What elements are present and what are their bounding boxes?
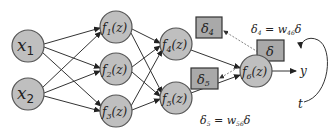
edges-hidden1-hidden2 xyxy=(131,29,162,110)
delta-box-5: δ5 xyxy=(191,68,218,89)
hidden-node-f3: f3(z) xyxy=(100,95,132,127)
svg-text:f4(z): f4(z) xyxy=(161,38,188,54)
equation-delta5: δ5 = w56δ xyxy=(200,114,251,127)
input-node-x2: x2 xyxy=(12,78,44,110)
input-node-x1: x1 xyxy=(12,30,44,62)
svg-text:f1(z): f1(z) xyxy=(101,21,128,37)
svg-text:f5(z): f5(z) xyxy=(161,92,188,108)
hidden-node-f2: f2(z) xyxy=(100,53,132,85)
svg-text:f3(z): f3(z) xyxy=(101,105,128,121)
delta-box-4: δ4 xyxy=(196,17,222,38)
equation-delta4: δ4 = w46δ xyxy=(251,23,302,36)
svg-text:δ: δ xyxy=(266,44,274,59)
hidden-node-f4: f4(z) xyxy=(160,28,192,60)
network-diagram: x1 x2 f1(z) f2(z) f3(z) δ4 δ5 δ f4(z) f5… xyxy=(0,0,336,136)
hidden-node-f5: f5(z) xyxy=(160,82,192,114)
svg-text:f6(z): f6(z) xyxy=(241,65,268,81)
target-label-t: t xyxy=(298,97,303,111)
hidden-node-f1: f1(z) xyxy=(100,11,132,43)
svg-text:f2(z): f2(z) xyxy=(101,63,128,79)
edges-input-hidden1 xyxy=(42,28,101,111)
output-label-y: y xyxy=(299,64,307,78)
output-node-f6: f6(z) xyxy=(240,55,272,87)
